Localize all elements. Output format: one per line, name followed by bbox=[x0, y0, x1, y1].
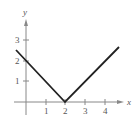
chart-canvas: x y 1 2 3 4 1 2 3 bbox=[0, 0, 137, 133]
y-tick-label: 3 bbox=[15, 35, 20, 45]
y-tick-label: 2 bbox=[15, 56, 20, 66]
function-line bbox=[16, 47, 119, 102]
x-tick-label: 3 bbox=[83, 106, 88, 116]
x-tick-label: 4 bbox=[103, 106, 108, 116]
y-tick-label: 1 bbox=[15, 76, 20, 86]
x-axis: x bbox=[14, 97, 131, 107]
y-axis-label: y bbox=[22, 7, 27, 17]
x-axis-label: x bbox=[126, 97, 131, 107]
x-axis-arrow-icon bbox=[117, 100, 124, 104]
y-axis-arrow-icon bbox=[24, 19, 28, 26]
x-tick-label: 1 bbox=[44, 106, 49, 116]
x-tick-label: 2 bbox=[63, 106, 68, 116]
